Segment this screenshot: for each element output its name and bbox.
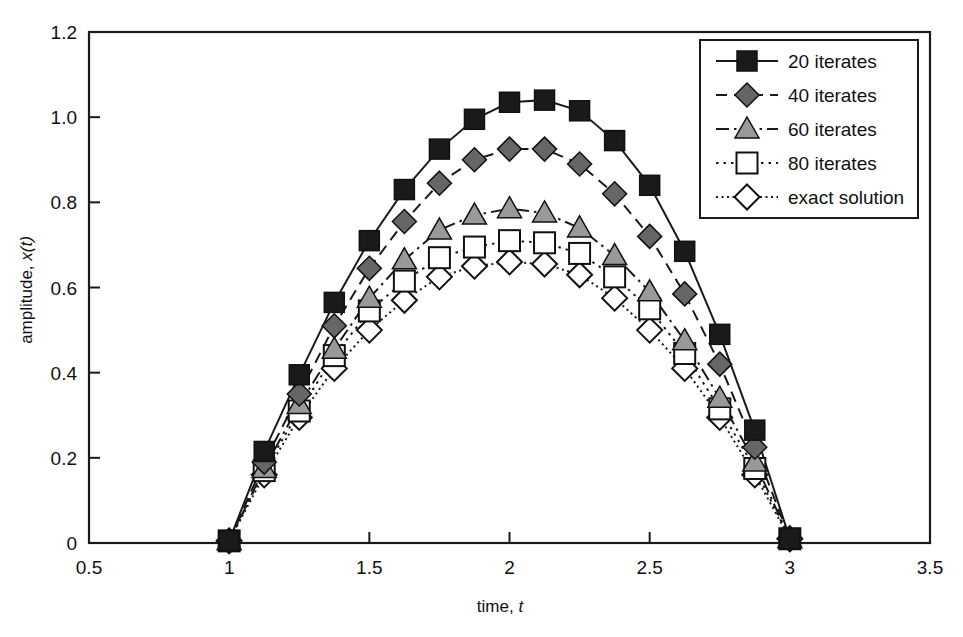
legend-label-4: 80 iterates xyxy=(788,153,877,174)
x-tick-label: 2 xyxy=(504,557,515,578)
y-tick-label: 0.8 xyxy=(51,192,77,213)
marker-square xyxy=(499,230,520,251)
marker-square xyxy=(745,420,765,440)
marker-square xyxy=(254,441,274,461)
marker-square xyxy=(429,139,449,159)
plot-canvas: 0.511.522.533.5 00.20.40.60.81.01.2 time… xyxy=(0,0,963,637)
y-tick-label: 0.6 xyxy=(51,278,77,299)
marker-square xyxy=(219,531,239,551)
data-point-marker xyxy=(464,109,484,129)
marker-square xyxy=(394,180,414,200)
data-point-marker xyxy=(675,241,695,261)
data-point-marker xyxy=(394,180,414,200)
y-axis-title: amplitude, x(t) xyxy=(17,236,36,344)
chart-figure: 0.511.522.533.5 00.20.40.60.81.01.2 time… xyxy=(0,0,963,637)
marker-square xyxy=(464,109,484,129)
marker-square xyxy=(464,237,485,258)
data-point-marker xyxy=(710,324,730,344)
data-point-marker xyxy=(219,531,239,551)
marker-square xyxy=(675,241,695,261)
data-point-marker xyxy=(780,529,800,549)
data-point-marker xyxy=(569,243,590,264)
legend-label-3: 60 iterates xyxy=(788,119,877,140)
data-point-marker xyxy=(737,153,758,174)
data-point-marker xyxy=(394,271,415,292)
x-tick-label: 3.5 xyxy=(917,557,943,578)
marker-square xyxy=(535,90,555,110)
legend-label-2: 40 iterates xyxy=(788,85,877,106)
chart-legend: 20 iterates40 iterates60 iterates80 iter… xyxy=(700,40,918,218)
marker-square xyxy=(780,529,800,549)
marker-square xyxy=(737,153,758,174)
data-point-marker xyxy=(324,292,344,312)
data-point-marker xyxy=(604,266,625,287)
data-point-marker xyxy=(429,139,449,159)
data-point-marker xyxy=(737,51,757,71)
y-label-main: amplitude, xyxy=(17,261,36,344)
svg-text:amplitude, x(t): amplitude, x(t) xyxy=(17,236,36,344)
marker-square xyxy=(359,231,379,251)
marker-square xyxy=(569,243,590,264)
marker-square xyxy=(737,51,757,71)
marker-square xyxy=(324,292,344,312)
data-point-marker xyxy=(429,247,450,268)
x-tick-label: 2.5 xyxy=(636,557,662,578)
data-point-marker xyxy=(570,101,590,121)
x-tick-label: 3 xyxy=(785,557,796,578)
marker-square xyxy=(289,365,309,385)
legend-label-5: exact solution xyxy=(788,187,904,208)
y-tick-label: 1.0 xyxy=(51,107,77,128)
data-point-marker xyxy=(745,420,765,440)
x-label-main: time, xyxy=(477,597,519,616)
svg-text:time, t: time, t xyxy=(477,597,525,616)
data-point-marker xyxy=(500,92,520,112)
x-tick-label: 1.5 xyxy=(356,557,382,578)
data-point-marker xyxy=(464,237,485,258)
y-tick-label: 0.4 xyxy=(51,363,78,384)
marker-square xyxy=(534,232,555,253)
y-label-variable: x(t) xyxy=(17,236,36,262)
marker-square xyxy=(570,101,590,121)
data-point-marker xyxy=(640,175,660,195)
data-point-marker xyxy=(605,131,625,151)
data-point-marker xyxy=(359,231,379,251)
data-point-marker xyxy=(534,232,555,253)
marker-square xyxy=(604,266,625,287)
y-tick-label: 1.2 xyxy=(51,22,77,43)
data-point-marker xyxy=(289,365,309,385)
marker-square xyxy=(429,247,450,268)
marker-square xyxy=(605,131,625,151)
data-point-marker xyxy=(254,441,274,461)
marker-square xyxy=(394,271,415,292)
data-point-marker xyxy=(499,230,520,251)
x-axis-title: time, t xyxy=(477,597,525,616)
marker-square xyxy=(500,92,520,112)
data-point-marker xyxy=(535,90,555,110)
x-tick-label: 0.5 xyxy=(76,557,102,578)
legend-label-1: 20 iterates xyxy=(788,51,877,72)
y-tick-label: 0.2 xyxy=(51,448,77,469)
x-tick-label: 1 xyxy=(224,557,235,578)
y-tick-label: 0 xyxy=(66,533,77,554)
marker-square xyxy=(710,324,730,344)
marker-square xyxy=(640,175,660,195)
